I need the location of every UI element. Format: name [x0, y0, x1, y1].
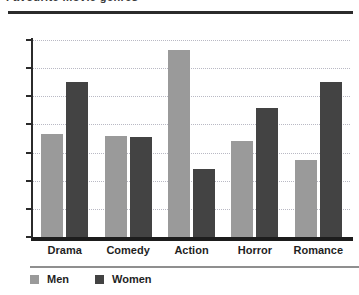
y-axis-tick	[26, 208, 32, 210]
legend-item-men[interactable]: Men	[30, 273, 69, 285]
bar-group	[105, 40, 152, 237]
x-axis-label-comedy: Comedy	[96, 244, 159, 256]
x-axis-label-horror: Horror	[223, 244, 286, 256]
bar-comedy-women[interactable]	[130, 137, 152, 237]
bar-comedy-men[interactable]	[105, 136, 127, 237]
legend-label: Women	[112, 273, 152, 285]
bar-romance-women[interactable]	[320, 82, 342, 237]
bar-drama-women[interactable]	[66, 82, 88, 237]
bar-action-men[interactable]	[168, 50, 190, 237]
bar-group	[41, 40, 88, 237]
y-axis-tick	[26, 123, 32, 125]
legend-swatch-men	[30, 275, 39, 284]
legend-divider	[30, 266, 359, 268]
legend-label: Men	[47, 273, 69, 285]
bar-group	[168, 40, 215, 237]
legend-swatch-women	[95, 275, 104, 284]
y-axis-tick	[26, 39, 32, 41]
bar-chart: 02468101214 DramaComedyActionHorrorRoman…	[0, 18, 359, 250]
bar-horror-women[interactable]	[256, 108, 278, 237]
x-axis-label-romance: Romance	[287, 244, 350, 256]
x-axis-label-drama: Drama	[33, 244, 96, 256]
y-axis-tick	[26, 152, 32, 154]
y-axis-tick	[26, 67, 32, 69]
chart-legend: MenWomen	[30, 273, 152, 285]
y-axis-tick	[26, 95, 32, 97]
x-axis-label-action: Action	[160, 244, 223, 256]
bar-action-women[interactable]	[193, 169, 215, 237]
title-divider	[8, 11, 353, 14]
bar-drama-men[interactable]	[41, 134, 63, 237]
bar-horror-men[interactable]	[231, 141, 253, 237]
y-axis-tick	[26, 180, 32, 182]
y-axis-tick	[26, 236, 32, 238]
bar-group	[231, 40, 278, 237]
plot-area	[33, 40, 350, 237]
bar-romance-men[interactable]	[295, 160, 317, 237]
x-axis-line	[31, 237, 353, 241]
bar-group	[295, 40, 342, 237]
page-title: Favourite movie genres	[6, 0, 196, 3]
legend-item-women[interactable]: Women	[95, 273, 152, 285]
